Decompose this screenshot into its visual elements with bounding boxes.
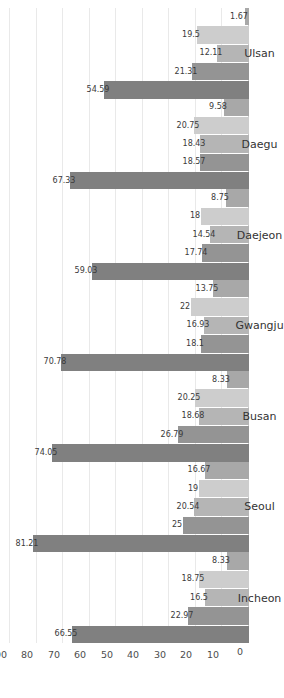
- category-label-text: Seoul: [244, 501, 275, 512]
- bar-value-text: 59.03: [75, 267, 98, 275]
- bar-series-4-ulsan[interactable]: 19.5: [197, 26, 249, 43]
- plot-area: 010203040506070809066.5522.9716.518.758.…: [10, 8, 249, 643]
- bar-series-5-daegu[interactable]: 9.58: [224, 99, 249, 116]
- bar-slot: 59.03: [10, 263, 249, 280]
- bar-series-2-ulsan[interactable]: 21.31: [192, 63, 249, 80]
- bar-value-text: 22.97: [171, 612, 194, 620]
- bar-value-label: 20.75: [184, 114, 192, 137]
- bar-group-bars: 67.3318.5718.4320.759.58: [10, 99, 249, 190]
- bar-value-label: 8.75: [216, 189, 224, 207]
- bar-slot: 20.54: [10, 498, 249, 515]
- bar-value-label: 20.54: [184, 495, 192, 518]
- bar-series-2-seoul[interactable]: 25: [183, 517, 249, 534]
- category-label-busan: Busan: [254, 371, 265, 462]
- bar-series-2-incheon[interactable]: 22.97: [188, 607, 249, 624]
- bar-series-3-seoul[interactable]: 20.54: [194, 498, 249, 515]
- bar-series-2-daejeon[interactable]: 17.74: [202, 244, 249, 261]
- bar-slot: 18.68: [10, 408, 249, 425]
- bar-value-text: 26.79: [160, 431, 183, 439]
- bar-value-label: 16.67: [195, 459, 203, 482]
- bar-value-text: 14.54: [193, 231, 216, 239]
- bar-series-5-busan[interactable]: 8.33: [227, 371, 249, 388]
- bar-series-2-busan[interactable]: 26.79: [178, 426, 249, 443]
- bar-group-bars: 54.5921.3112.1119.51.67: [10, 8, 249, 99]
- bar-value-text: 18.1: [186, 340, 204, 348]
- bar-value-label: 9.58: [214, 98, 222, 116]
- bar-value-text: 19: [187, 485, 197, 493]
- bar-value-label: 59.03: [82, 260, 90, 283]
- bar-slot: 13.75: [10, 280, 249, 297]
- bar-value-text: 9.58: [209, 103, 227, 111]
- bar-value-text: 66.55: [55, 630, 78, 638]
- category-label-text: Daejeon: [237, 229, 282, 240]
- y-axis-tick-label: 90: [0, 649, 5, 661]
- y-axis-tick-label: 0: [235, 649, 245, 655]
- bar-slot: 19.5: [10, 26, 249, 43]
- bar-series-4-gwangju[interactable]: 22: [191, 298, 249, 315]
- bar-slot: 12.11: [10, 45, 249, 62]
- bar-series-1-seoul[interactable]: 81.21: [33, 535, 249, 552]
- bar-value-label: 1.67: [235, 8, 243, 26]
- bar-value-label: 81.21: [23, 532, 31, 555]
- bar-value-text: 18.57: [182, 158, 205, 166]
- y-axis-tick-label: 10: [208, 649, 218, 661]
- bar-series-5-incheon[interactable]: 8.33: [227, 552, 249, 569]
- bar-slot: 26.79: [10, 426, 249, 443]
- bar-value-text: 13.75: [195, 285, 218, 293]
- bar-series-4-daejeon[interactable]: 18: [201, 208, 249, 225]
- bar-value-label: 54.59: [94, 79, 102, 102]
- bar-slot: 21.31: [10, 63, 249, 80]
- bar-value-label: 74.05: [42, 441, 50, 464]
- bar-series-1-gwangju[interactable]: 70.78: [61, 354, 249, 371]
- bar-value-text: 74.05: [35, 449, 58, 457]
- bar-series-5-daejeon[interactable]: 8.75: [226, 189, 249, 206]
- category-label-gwangju: Gwangju: [254, 280, 265, 371]
- bar-value-label: 18.1: [191, 335, 199, 353]
- bar-value-text: 1.67: [230, 13, 248, 21]
- bar-series-5-seoul[interactable]: 16.67: [205, 462, 249, 479]
- bar-slot: 18: [10, 208, 249, 225]
- bar-value-text: 18.43: [183, 140, 206, 148]
- bar-value-text: 25: [172, 521, 182, 529]
- bar-series-4-daegu[interactable]: 20.75: [194, 117, 249, 134]
- bar-value-text: 8.33: [212, 557, 230, 565]
- bar-series-5-ulsan[interactable]: 1.67: [245, 8, 249, 25]
- bar-slot: 18.43: [10, 135, 249, 152]
- y-axis-tick-text: 0: [236, 647, 242, 657]
- bar-value-text: 18: [190, 212, 200, 220]
- bar-group-bars: 66.5522.9716.518.758.33: [10, 552, 249, 643]
- bar-series-1-busan[interactable]: 74.05: [52, 444, 249, 461]
- bar-slot: 9.58: [10, 99, 249, 116]
- category-label-daejeon: Daejeon: [254, 189, 265, 280]
- bar-value-text: 22: [179, 303, 189, 311]
- category-label-text: Ulsan: [244, 48, 275, 59]
- category-label-seoul: Seoul: [254, 462, 265, 553]
- y-axis-tick-text: 40: [127, 650, 139, 660]
- bar-value-text: 8.75: [211, 194, 229, 202]
- bar-series-1-ulsan[interactable]: 54.59: [104, 81, 249, 98]
- bar-group-seoul: 81.212520.541916.67Seoul: [10, 462, 249, 553]
- bar-group-gwangju: 70.7818.116.932213.75Gwangju: [10, 280, 249, 371]
- y-axis-tick-label: 80: [22, 649, 32, 661]
- bar-slot: 18.75: [10, 571, 249, 588]
- bar-slot: 1.67: [10, 8, 249, 25]
- bar-series-5-gwangju[interactable]: 13.75: [213, 280, 250, 297]
- bar-series-4-seoul[interactable]: 19: [199, 480, 249, 497]
- y-axis-tick-text: 70: [48, 650, 60, 660]
- bar-value-text: 18.75: [182, 575, 205, 583]
- category-label-text: Incheon: [238, 592, 282, 603]
- bar-series-2-daegu[interactable]: 18.57: [200, 154, 249, 171]
- bar-slot: 8.33: [10, 371, 249, 388]
- bar-slot: 18.1: [10, 335, 249, 352]
- bar-series-4-busan[interactable]: 20.25: [195, 389, 249, 406]
- bar-series-1-daegu[interactable]: 67.33: [70, 172, 249, 189]
- bar-series-1-daejeon[interactable]: 59.03: [92, 263, 249, 280]
- bar-chart-figure: 010203040506070809066.5522.9716.518.758.…: [0, 0, 282, 698]
- bar-series-1-incheon[interactable]: 66.55: [72, 626, 249, 643]
- bar-slot: 8.33: [10, 552, 249, 569]
- bar-value-text: 8.33: [212, 376, 230, 384]
- bar-value-label: 70.78: [51, 351, 59, 374]
- bar-series-2-gwangju[interactable]: 18.1: [201, 335, 249, 352]
- y-axis-tick-label: 60: [75, 649, 85, 661]
- bar-series-4-incheon[interactable]: 18.75: [199, 571, 249, 588]
